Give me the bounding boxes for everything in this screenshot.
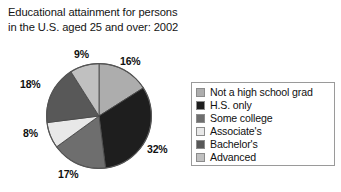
pie-value-label-advanced: 9% xyxy=(74,48,89,60)
legend-item[interactable]: Not a high school grad xyxy=(196,86,334,99)
chart-legend: Not a high school gradH.S. onlySome coll… xyxy=(191,82,335,166)
pie-value-label-hs-only: 32% xyxy=(147,143,167,155)
pie-value-label-associates: 8% xyxy=(23,127,38,139)
legend-swatch-icon xyxy=(196,153,205,162)
legend-item[interactable]: H.S. only xyxy=(196,99,334,112)
legend-item-label: Bachelor's xyxy=(210,138,258,151)
legend-swatch-icon xyxy=(196,127,205,136)
legend-item-label: Some college xyxy=(210,112,272,125)
legend-swatch-icon xyxy=(196,140,205,149)
legend-swatch-icon xyxy=(196,114,205,123)
pie-value-label-some-college: 17% xyxy=(58,168,78,180)
pie-graphic xyxy=(46,63,152,169)
legend-swatch-icon xyxy=(196,101,205,110)
chart-title: Educational attainment for persons in th… xyxy=(8,5,208,35)
pie-value-label-not-a-high-school-grad: 16% xyxy=(120,55,140,67)
pie-svg xyxy=(46,63,152,169)
legend-swatch-icon xyxy=(196,88,205,97)
legend-item[interactable]: Advanced xyxy=(196,151,334,164)
legend-item[interactable]: Some college xyxy=(196,112,334,125)
legend-item[interactable]: Bachelor's xyxy=(196,138,334,151)
legend-item-label: Associate's xyxy=(210,125,262,138)
legend-item-label: Not a high school grad xyxy=(210,86,313,99)
legend-item-label: Advanced xyxy=(210,151,256,164)
legend-item[interactable]: Associate's xyxy=(196,125,334,138)
pie-chart-figure: Educational attainment for persons in th… xyxy=(0,0,341,192)
legend-item-label: H.S. only xyxy=(210,99,252,112)
pie-value-label-bachelors: 18% xyxy=(20,78,40,90)
